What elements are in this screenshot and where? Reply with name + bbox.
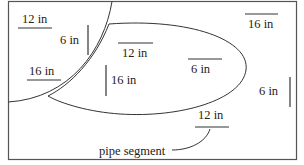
segment-label: 16 in: [111, 73, 137, 87]
segment-label: 12 in: [122, 46, 148, 60]
segment-label: 6 in: [60, 33, 80, 47]
segment-16in-top-right: 16 in: [245, 14, 278, 31]
pipe-segment-diagram: 12 in 6 in 12 in 16 in 16 in 6 in 16 in …: [0, 0, 304, 165]
segment-label: 16 in: [248, 17, 274, 31]
segment-label: 12 in: [198, 108, 224, 122]
callout-label: pipe segment: [99, 144, 166, 158]
segment-label: 16 in: [29, 64, 55, 78]
segment-label: 6 in: [191, 62, 211, 76]
segment-6in-vertical-right: 6 in: [259, 77, 290, 107]
pipe-segment-callout: pipe segment: [99, 129, 210, 158]
segment-16in-vertical-center: 16 in: [106, 65, 137, 96]
segment-12in-top-left: 12 in: [18, 12, 52, 28]
segment-6in-vertical-left: 6 in: [60, 25, 88, 55]
callout-leader-line: [172, 129, 210, 150]
segment-6in-ellipse: 6 in: [188, 59, 222, 76]
segment-label: 12 in: [22, 12, 48, 26]
segment-16in-left: 16 in: [27, 64, 61, 80]
segment-label: 6 in: [259, 84, 279, 98]
segment-12in-bottom: 12 in: [195, 108, 229, 127]
segment-12in-center: 12 in: [118, 43, 153, 60]
